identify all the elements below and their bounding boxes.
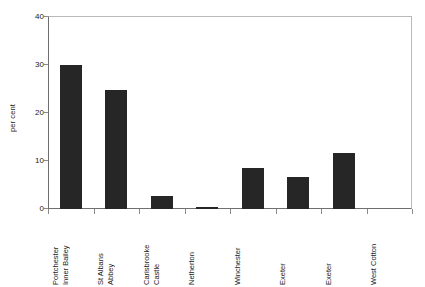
- x-cat-label-2: Carisbrooke Castle: [142, 215, 182, 285]
- x-cat-label-5: Exeter: [278, 215, 318, 285]
- x-tick-mark-1: [94, 209, 95, 214]
- bar-chart: per cent 40 30 20 10 0 Portchester Inner…: [0, 0, 425, 287]
- x-tick-mark-4: [230, 209, 231, 214]
- x-cat-text-7: West Cotton: [369, 215, 379, 285]
- x-tick-mark-6: [321, 209, 322, 214]
- y-tick-label-20: 20: [20, 109, 44, 117]
- x-cat-text-4: Winchester: [233, 215, 243, 285]
- x-cat-text-2: Carisbrooke Castle: [142, 215, 161, 285]
- bar-3: [196, 207, 218, 209]
- bar-2: [151, 196, 173, 209]
- bar-0: [60, 65, 82, 209]
- x-cat-text-5: Exeter: [278, 215, 288, 285]
- x-cat-text-0: Portchester Inner Bailey: [51, 215, 70, 285]
- y-tick-label-0: 0: [20, 205, 44, 213]
- x-cat-label-7: West Cotton: [369, 215, 409, 285]
- bar-5: [287, 177, 309, 209]
- bars-layer: [48, 16, 412, 209]
- x-tick-mark-7: [367, 209, 368, 214]
- x-tick-mark-8: [412, 209, 413, 214]
- x-tick-mark-0: [48, 209, 49, 214]
- x-tick-mark-5: [276, 209, 277, 214]
- x-cat-label-6: Exeter: [324, 215, 364, 285]
- bar-4: [242, 168, 264, 209]
- bar-1: [105, 90, 127, 209]
- y-tick-label-10: 10: [20, 157, 44, 165]
- y-axis-title: per cent: [6, 88, 20, 148]
- y-tick-label-30: 30: [20, 61, 44, 69]
- x-tick-mark-2: [139, 209, 140, 214]
- y-tick-label-40: 40: [20, 13, 44, 21]
- x-cat-text-3: Netherton: [187, 215, 197, 285]
- x-cat-text-6: Exeter: [324, 215, 334, 285]
- x-cat-label-0: Portchester Inner Bailey: [51, 215, 91, 285]
- x-cat-text-1: St Albans Abbey: [96, 215, 115, 285]
- x-cat-label-1: St Albans Abbey: [96, 215, 136, 285]
- x-tick-mark-3: [185, 209, 186, 214]
- x-cat-label-3: Netherton: [187, 215, 227, 285]
- x-cat-label-4: Winchester: [233, 215, 273, 285]
- bar-6: [333, 153, 355, 209]
